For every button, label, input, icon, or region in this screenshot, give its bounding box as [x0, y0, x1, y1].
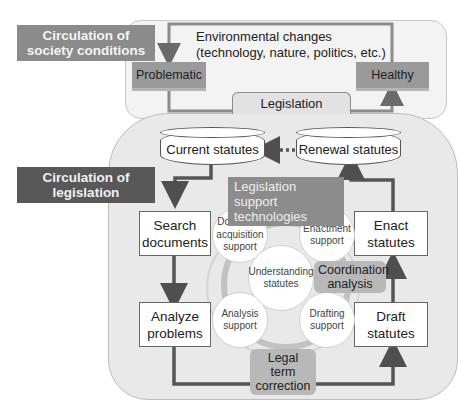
environment-line2: (technology, nature, politics, etc.)	[196, 45, 386, 61]
circle-line2: support	[309, 320, 344, 333]
circle-analysis-support: Analysissupport	[212, 292, 268, 348]
circle-line1: Understanding	[248, 266, 313, 279]
current-statutes-db: Current statutes	[160, 127, 265, 165]
circle-drafting-support: Draftingsupport	[299, 292, 355, 348]
society-label-line1: Circulation of	[17, 28, 155, 43]
legislation-label-line1: Circulation of	[17, 170, 155, 185]
environment-line1: Environmental changes	[196, 29, 386, 45]
step-line2: statutes	[367, 325, 414, 342]
support-title-line2: technologies	[234, 209, 338, 224]
legislation-label-line2: legislation	[17, 185, 155, 200]
circle-line2: acquisition	[216, 229, 263, 242]
society-conditions-label: Circulation of society conditions	[17, 25, 155, 61]
cylinder-top	[296, 127, 401, 138]
step-line1: Analyze	[147, 308, 203, 325]
legal-term-line2: correction	[254, 379, 312, 393]
step-line2: documents	[142, 234, 208, 251]
step-line2: problems	[147, 325, 203, 342]
legislation-circulation-label: Circulation of legislation	[17, 167, 155, 203]
circle-line3: support	[216, 241, 263, 254]
state-healthy: Healthy	[356, 62, 429, 91]
circle-line1: Analysis	[221, 308, 258, 321]
circle-line1: Drafting	[309, 308, 344, 321]
step-line1: Enact	[367, 217, 414, 234]
support-title-line1: Legislation support	[234, 179, 338, 209]
coordination-line2: analysis	[318, 277, 382, 291]
coordination-analysis-bubble: Coordination analysis	[314, 261, 386, 293]
cylinder-top	[160, 127, 265, 138]
support-technologies-title: Legislation support technologies	[228, 177, 344, 226]
environmental-changes-text: Environmental changes (technology, natur…	[196, 29, 386, 61]
step-line2: statutes	[367, 234, 414, 251]
step-draft-statutes: Draftstatutes	[354, 302, 428, 347]
renewal-statutes-db: Renewal statutes	[296, 127, 401, 165]
circle-line2: support	[303, 235, 351, 248]
state-problematic: Problematic	[132, 62, 206, 91]
step-search-documents: Searchdocuments	[139, 211, 211, 256]
step-analyze-problems: Analyzeproblems	[139, 302, 211, 347]
society-label-line2: society conditions	[17, 43, 155, 58]
coordination-line1: Coordination	[318, 263, 382, 277]
legal-term-correction-bubble: Legal term correction	[250, 349, 316, 395]
legislation-tab: Legislation	[232, 92, 351, 114]
step-line1: Draft	[367, 308, 414, 325]
step-line1: Search	[142, 217, 208, 234]
circle-line2: statutes	[248, 278, 313, 291]
circle-line2: support	[221, 320, 258, 333]
legal-term-line1: Legal term	[254, 351, 312, 379]
step-enact-statutes: Enactstatutes	[354, 211, 428, 256]
